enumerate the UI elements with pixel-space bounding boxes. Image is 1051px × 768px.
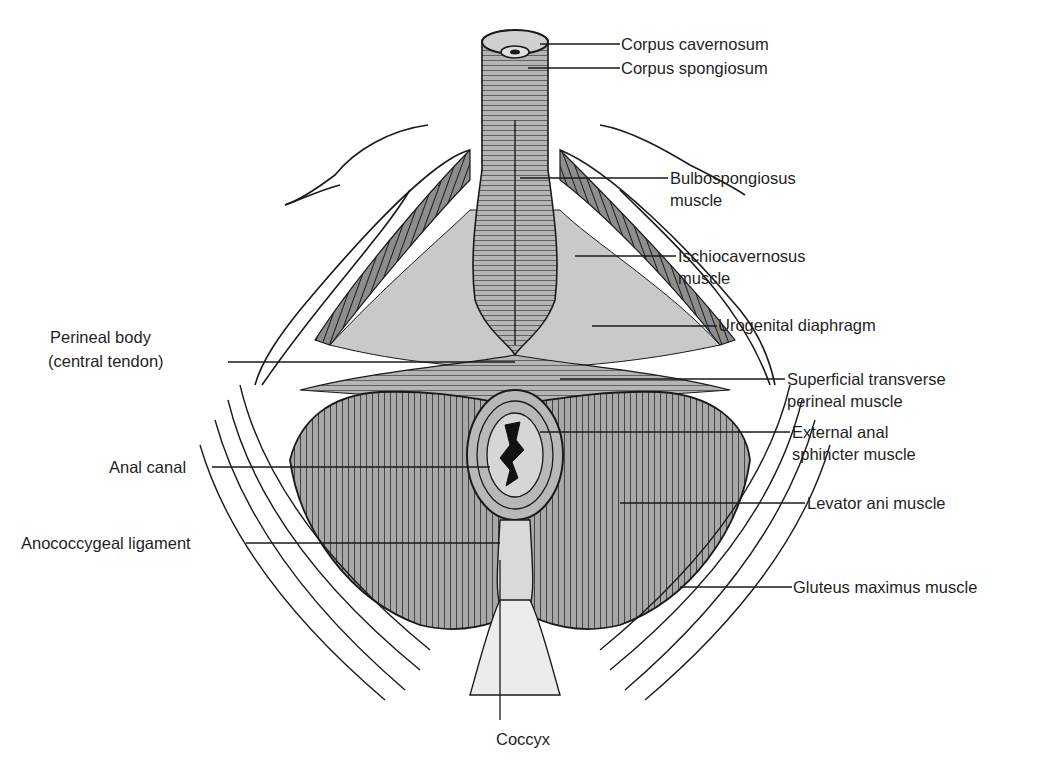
label-superficial-transverse: Superficial transverse (787, 370, 946, 389)
label-corpus-cavernosum: Corpus cavernosum (621, 35, 769, 54)
anococcygeal-ligament (497, 520, 532, 605)
label-levator-ani: Levator ani muscle (807, 494, 946, 513)
label-coccyx: Coccyx (496, 730, 550, 749)
label-corpus-spongiosum: Corpus spongiosum (621, 59, 768, 78)
label-perineal-body: Perineal body (50, 328, 151, 347)
label-gluteus-maximus: Gluteus maximus muscle (793, 578, 977, 597)
label-perineal-body-line2: (central tendon) (48, 352, 164, 371)
label-ischiocavernosus-line2: muscle (678, 269, 730, 288)
label-anococcygeal-ligament: Anococcygeal ligament (21, 534, 191, 553)
label-urogenital-diaphragm: Urogenital diaphragm (718, 316, 876, 335)
label-bulbospongiosus-line2: muscle (670, 191, 722, 210)
label-external-anal-sphincter-line2: sphincter muscle (792, 445, 916, 464)
label-ischiocavernosus: Ischiocavernosus (678, 247, 805, 266)
label-anal-canal: Anal canal (109, 458, 186, 477)
label-superficial-transverse-line2: perineal muscle (787, 392, 903, 411)
label-bulbospongiosus: Bulbospongiosus (670, 169, 796, 188)
label-external-anal-sphincter: External anal (792, 423, 888, 442)
